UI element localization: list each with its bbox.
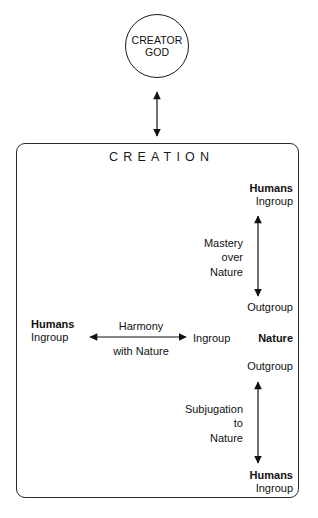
subjugation-top-node: Outgroup (203, 360, 293, 373)
mastery-label-line-3: Nature (173, 265, 243, 279)
mastery-top-node: Humans Ingroup (193, 182, 293, 208)
subjugation-label-line-2: to (160, 416, 243, 430)
mastery-top-regular: Ingroup (193, 195, 293, 208)
mastery-label-line-2: over (173, 250, 243, 264)
creator-god-node: CREATOR GOD (125, 14, 189, 78)
diagram-canvas: CREATOR GOD CREATION Humans Ingroup Mast… (0, 0, 318, 518)
creator-god-line-1: CREATOR (131, 34, 182, 46)
mastery-label-line-1: Mastery (173, 236, 243, 250)
creator-god-line-2: GOD (145, 46, 169, 58)
creation-title: CREATION (0, 150, 318, 164)
subjugation-label: Subjugation to Nature (160, 402, 243, 445)
harmony-label-above: Harmony (98, 320, 184, 334)
subjugation-label-line-1: Subjugation (160, 402, 243, 416)
mastery-bottom-node: Outgroup (203, 301, 293, 314)
subjugation-label-line-3: Nature (160, 431, 243, 445)
subjugation-bottom-node: Humans Ingroup (193, 469, 293, 495)
subjugation-top-regular: Outgroup (203, 360, 293, 373)
mastery-top-strong: Humans (193, 182, 293, 195)
mastery-label: Mastery over Nature (173, 236, 243, 279)
nature-label: Nature (223, 332, 293, 345)
nature-node: Nature (223, 332, 293, 345)
mastery-bottom-regular: Outgroup (203, 301, 293, 314)
subjugation-bottom-strong: Humans (193, 469, 293, 482)
subjugation-bottom-regular: Ingroup (193, 482, 293, 495)
harmony-label-below: with Nature (94, 345, 188, 359)
